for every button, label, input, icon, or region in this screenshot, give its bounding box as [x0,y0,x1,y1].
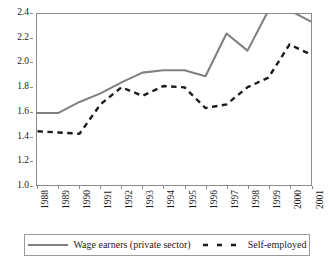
x-tick-label: 1989 [62,190,72,209]
x-tick-mark [142,186,143,189]
x-tick-mark [79,186,80,189]
x-tick-label: 1990 [83,190,93,209]
x-tick-mark [248,186,249,189]
x-tick-label: 1999 [273,190,283,209]
x-tick-label: 1994 [167,190,177,209]
x-tick-label: 1995 [189,190,199,209]
y-tick-label: 1.0 [17,181,29,191]
legend-dashed-line-icon [202,241,244,249]
x-tick-mark [185,186,186,189]
x-tick-label: 1988 [41,190,51,209]
y-tick-mark [30,112,33,113]
x-tick-mark [312,186,313,189]
x-tick-mark [269,186,270,189]
legend-item-wage-earners: Wage earners (private sector) [27,240,190,250]
y-tick-mark [30,13,33,14]
y-tick-mark [30,87,33,88]
y-tick-mark [30,161,33,162]
legend-solid-line-icon [27,241,69,249]
chart-legend: Wage earners (private sector) Self-emplo… [24,234,310,256]
y-tick-mark [30,62,33,63]
x-tick-label: 2001 [316,190,326,209]
x-tick-label: 1993 [146,190,156,209]
legend-label-self-employed: Self-employed [248,240,307,250]
x-tick-mark [206,186,207,189]
y-tick-label: 1.4 [17,132,29,142]
x-tick-mark [37,186,38,189]
x-axis: 1988198919901991199219931994199519961997… [36,188,312,228]
x-tick-mark [290,186,291,189]
x-tick-label: 1992 [125,190,135,209]
x-tick-label: 1996 [210,190,220,209]
x-tick-mark [100,186,101,189]
plot-area [36,13,312,186]
series-wage-earners-line [37,14,310,113]
y-tick-mark [30,137,33,138]
y-tick-mark [30,38,33,39]
x-tick-label: 1998 [252,190,262,209]
y-tick-label: 2.4 [17,8,29,18]
line-chart: 2.42.22.01.81.61.41.21.0 198819891990199… [0,0,332,261]
y-tick-label: 1.6 [17,107,29,117]
plot-svg [37,14,311,185]
x-tick-label: 1997 [231,190,241,209]
y-axis: 2.42.22.01.81.61.41.21.0 [0,13,33,186]
x-tick-mark [163,186,164,189]
y-tick-label: 2.2 [17,33,29,43]
x-tick-mark [58,186,59,189]
y-tick-mark [30,186,33,187]
x-tick-label: 1991 [104,190,114,209]
legend-label-wage-earners: Wage earners (private sector) [73,240,190,250]
x-tick-label: 2000 [294,190,304,209]
y-tick-label: 1.2 [17,157,29,167]
x-tick-mark [121,186,122,189]
y-tick-label: 2.0 [17,58,29,68]
x-tick-mark [227,186,228,189]
y-tick-label: 1.8 [17,82,29,92]
legend-item-self-employed: Self-employed [202,240,307,250]
series-self-employed-line [37,45,310,134]
